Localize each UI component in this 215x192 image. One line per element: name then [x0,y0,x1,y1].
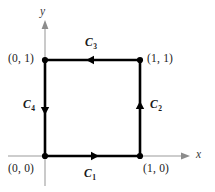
contour-diagram: x y (0, 1) (1, 1) (0, 0) (1, 0) C3 C2 C4… [0,0,215,192]
curve-label-c2: C2 [150,99,162,111]
vertex-label-top-left: (0, 1) [8,53,34,65]
vertex-dots [42,57,143,159]
vertex-dot-bottom-right [137,153,143,159]
vertex-label-origin: (0, 0) [8,163,34,175]
x-axis-arrowhead [181,153,190,160]
square-contour [45,60,140,156]
vertex-dot-top-left [42,57,48,63]
x-axis-label: x [196,149,201,161]
vertex-dot-top-right [137,57,143,63]
vertex-label-bottom-right: (1, 0) [143,163,169,175]
curve-label-c1-sub: 1 [92,173,96,182]
y-axis-label: y [40,6,45,18]
curve-label-c4: C4 [23,99,35,111]
curve-label-c2-sub: 2 [158,104,162,113]
curve-label-c1: C1 [84,168,96,180]
curve-label-c1-base: C [84,167,92,179]
arrowhead-c2-up [136,101,144,109]
arrowhead-c1-right [91,152,99,160]
direction-arrowheads [41,56,144,160]
curve-label-c3: C3 [85,37,97,49]
curve-label-c2-base: C [150,98,158,110]
curve-label-c3-sub: 3 [93,42,97,51]
vertex-label-top-right: (1, 1) [147,53,173,65]
arrowhead-c3-left [86,56,94,64]
curve-label-c3-base: C [85,36,93,48]
curve-label-c4-sub: 4 [31,104,35,113]
arrowhead-c4-down [41,107,49,115]
vertex-dot-origin [42,153,48,159]
y-axis-arrowhead [42,20,49,29]
curve-label-c4-base: C [23,98,31,110]
